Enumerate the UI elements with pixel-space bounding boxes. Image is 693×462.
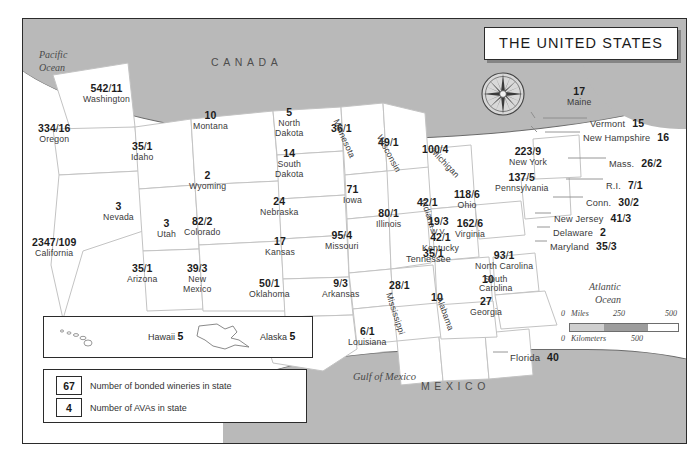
state-label-nevada: 3 Nevada <box>103 196 134 223</box>
canada-label: CANADA <box>211 56 282 68</box>
atlantic-ocean-label: Atlantic Ocean <box>589 281 621 306</box>
us-wineries-map: Pacific Ocean Atlantic Ocean Gulf of Mex… <box>0 0 693 462</box>
state-label-washington: 542/11 Washington <box>83 78 130 105</box>
state-label-missouri: 95/4 Missouri <box>325 225 359 252</box>
scale-km-label: Kilometers <box>571 334 606 343</box>
state-label-arkansas: 9/3 Arkansas <box>322 273 359 300</box>
hawaii-alaska-inset: Hawaii 5 Alaska 5 <box>43 316 313 358</box>
state-label-california: 2347/109 California <box>32 232 76 259</box>
scale-miles-mid: 250 <box>613 309 625 318</box>
state-label-georgia: 27 Georgia <box>470 291 502 318</box>
scale-miles-zero: 0 <box>561 309 565 318</box>
state-label-montana: 10 Montana <box>193 105 228 132</box>
state-value-tennessee: 35/1 <box>423 243 444 260</box>
state-label-new-hampshire: New Hampshire 16 <box>583 127 669 144</box>
scale-miles-max: 500 <box>665 309 677 318</box>
state-label-idaho: 35/1 Idaho <box>131 136 154 163</box>
state-label-rhode-island: R.I. 7/1 <box>606 175 643 192</box>
state-label-maryland: Maryland 35/3 <box>550 236 617 253</box>
state-label-oregon: 334/16 Oregon <box>38 118 71 145</box>
state-label-colorado: 82/2 Colorado <box>184 211 220 238</box>
state-label-connecticut: Conn. 30/2 <box>586 192 639 209</box>
state-label-utah: 3 Utah <box>157 213 176 240</box>
hawaii-islands-shape <box>52 322 144 352</box>
state-label-massachusetts: Mass. 26/2 <box>609 153 662 170</box>
alaska-label: Alaska 5 <box>260 330 295 342</box>
state-label-south-dakota: 14 South Dakota <box>275 143 303 179</box>
state-label-virginia: 162/6 Virginia <box>455 213 485 240</box>
state-label-mississippi: 28/1 <box>389 275 410 292</box>
state-label-louisiana: 6/1 Louisiana <box>348 321 387 348</box>
state-label-north-carolina: 93/1 North Carolina <box>475 245 533 272</box>
gulf-of-mexico-label: Gulf of Mexico <box>353 370 416 383</box>
state-label-florida: Florida 40 <box>510 347 559 364</box>
state-label-west-virginia: 19/3 W.V. <box>428 211 449 236</box>
state-label-wyoming: 2 Wyoming <box>189 165 226 192</box>
legend-key-avas: 4 <box>56 398 82 417</box>
map-title: THE UNITED STATES <box>499 35 663 51</box>
scale-km-mid: 500 <box>631 334 643 343</box>
state-label-new-york: 223/9 New York <box>509 141 547 168</box>
state-label-arizona: 35/1 Arizona <box>127 258 158 285</box>
mexico-label: MEXICO <box>421 380 490 392</box>
state-label-nebraska: 24 Nebraska <box>260 191 298 218</box>
state-label-pennsylvania: 137/5 Pennsylvania <box>495 167 548 194</box>
legend-row-wineries: 67 Number of bonded wineries in state <box>56 376 232 395</box>
scale-miles-label: Miles <box>571 309 589 318</box>
legend-text-wineries: Number of bonded wineries in state <box>90 381 232 391</box>
pacific-ocean-label: Pacific Ocean <box>39 49 67 74</box>
map-frame: Pacific Ocean Atlantic Ocean Gulf of Mex… <box>22 18 687 444</box>
state-label-maine: 17 Maine <box>567 81 591 108</box>
scale-bar: 0 Miles 250 500 0 Kilometers 500 <box>561 309 686 347</box>
state-label-ohio: 118/6 Ohio <box>454 184 480 211</box>
state-label-oklahoma: 50/1 Oklahoma <box>249 273 290 300</box>
state-label-iowa: 71 Iowa <box>343 179 362 206</box>
legend-text-avas: Number of AVAs in state <box>90 403 187 413</box>
scale-bar-graphic <box>569 323 679 332</box>
compass-rose-icon <box>480 71 526 117</box>
state-name-south-carolina: South Carolina <box>479 275 513 294</box>
legend-row-avas: 4 Number of AVAs in state <box>56 398 187 417</box>
map-legend: 67 Number of bonded wineries in state 4 … <box>43 369 307 423</box>
legend-key-wineries: 67 <box>56 376 82 395</box>
scale-km-zero: 0 <box>561 334 565 343</box>
state-label-new-mexico: 39/3 New Mexico <box>183 258 211 294</box>
alaska-shape <box>191 320 257 354</box>
state-label-illinois: 80/1 Illinois <box>376 203 401 230</box>
hawaii-label: Hawaii 5 <box>148 330 183 342</box>
map-title-box: THE UNITED STATES <box>484 27 678 60</box>
state-label-north-dakota: 5 North Dakota <box>275 102 303 138</box>
state-label-kansas: 17 Kansas <box>265 231 295 258</box>
